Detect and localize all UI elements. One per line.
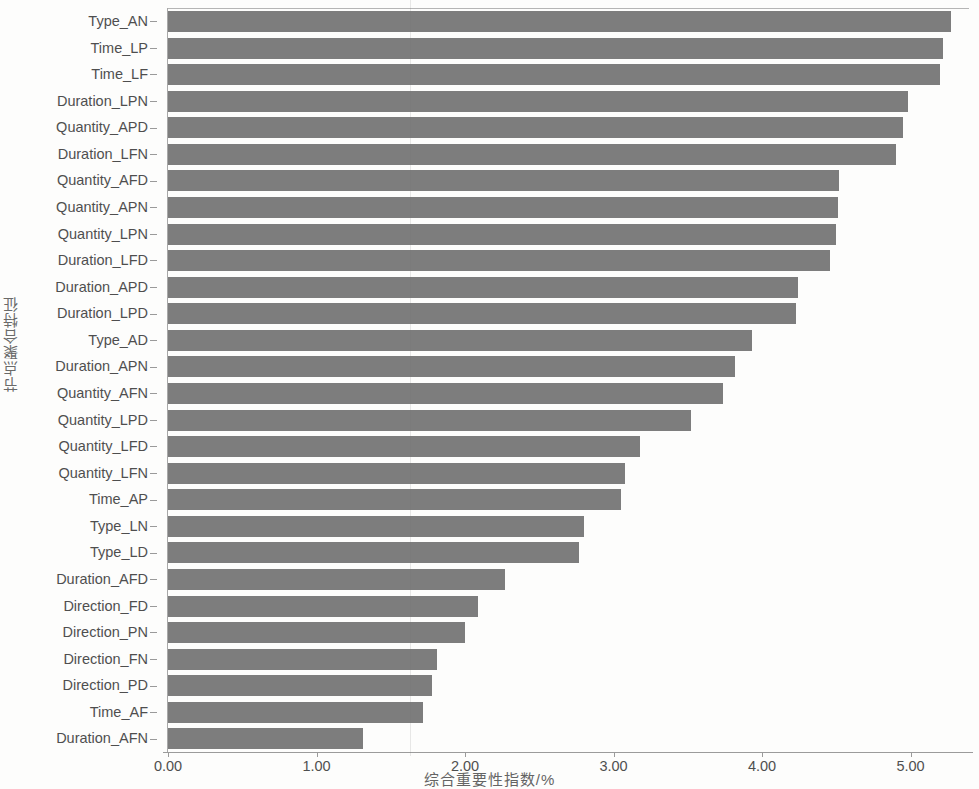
bar	[168, 117, 903, 138]
bar-row	[168, 61, 970, 89]
bar	[168, 303, 796, 324]
y-axis-tick-label: Quantity_AFN	[57, 380, 148, 408]
x-axis-tick-mark	[911, 752, 912, 757]
y-axis-tick-label: Quantity_LPN	[58, 221, 148, 249]
bar-row	[168, 460, 970, 488]
bar	[168, 64, 940, 85]
bar-row	[168, 672, 970, 700]
bar-row	[168, 407, 970, 435]
bar	[168, 516, 584, 537]
bar-row	[168, 167, 970, 195]
y-axis-tick-mark	[150, 739, 157, 740]
y-axis-tick-label: Duration_APD	[55, 274, 148, 302]
bar-row	[168, 114, 970, 142]
bar	[168, 91, 908, 112]
y-axis-tick-label: Duration_LPD	[57, 300, 148, 328]
bar	[168, 224, 836, 245]
plot-area	[167, 8, 969, 752]
bar-row	[168, 593, 970, 621]
y-axis-tick-mark	[150, 287, 157, 288]
x-axis-tick-mark	[762, 752, 763, 757]
bar-row	[168, 274, 970, 302]
y-axis-tick-mark	[150, 632, 157, 633]
y-axis-tick-label: Type_LD	[90, 539, 148, 567]
bar-row	[168, 566, 970, 594]
y-axis-tick-mark	[150, 367, 157, 368]
x-axis-tick-mark	[465, 752, 466, 757]
bar-row	[168, 221, 970, 249]
y-axis-tick-mark	[150, 234, 157, 235]
y-axis-tick-label: Duration_AFN	[56, 725, 148, 753]
y-axis-tick-label: Time_LP	[91, 35, 148, 63]
bar-row	[168, 247, 970, 275]
bar-row	[168, 327, 970, 355]
y-axis-tick-mark	[150, 207, 157, 208]
bar	[168, 436, 640, 457]
y-axis-tick-mark	[150, 260, 157, 261]
x-axis-tick-mark	[317, 752, 318, 757]
bar-row	[168, 725, 970, 753]
bar	[168, 144, 896, 165]
bar-row	[168, 35, 970, 63]
bar	[168, 383, 723, 404]
y-axis-tick-mark	[150, 473, 157, 474]
y-axis-tick-label: Quantity_LPD	[58, 407, 148, 435]
y-axis-tick-label: Direction_PD	[63, 672, 148, 700]
y-axis-tick-label: Time_AF	[90, 699, 148, 727]
bar-row	[168, 486, 970, 514]
y-axis-tick-mark	[150, 420, 157, 421]
bar	[168, 675, 432, 696]
bar-chart-figure: 节点聚合特征 Type_ANTime_LPTime_LFDuration_LPN…	[0, 0, 979, 789]
y-axis-tick-label: Time_AP	[89, 486, 148, 514]
y-axis-tick-mark	[150, 606, 157, 607]
y-axis-tick-mark	[150, 128, 157, 129]
y-axis-tick-label: Direction_FD	[63, 593, 148, 621]
bar-row	[168, 619, 970, 647]
y-axis-tick-label: Type_AN	[88, 8, 148, 36]
bar	[168, 649, 437, 670]
y-axis-tick-label: Time_LF	[91, 61, 148, 89]
bar-row	[168, 194, 970, 222]
bar-row	[168, 353, 970, 381]
x-axis-tick-mark	[614, 752, 615, 757]
y-axis-tick-mark	[150, 659, 157, 660]
y-axis-tick-label: Type_LN	[90, 513, 148, 541]
bar	[168, 410, 691, 431]
bar	[168, 596, 478, 617]
bar-row	[168, 8, 970, 36]
bar	[168, 330, 752, 351]
y-axis-tick-label: Quantity_APN	[56, 194, 148, 222]
bar-row	[168, 699, 970, 727]
bar-row	[168, 646, 970, 674]
bar	[168, 11, 951, 32]
x-axis-tick-mark	[168, 752, 169, 757]
y-axis-tick-mark	[150, 500, 157, 501]
bar	[168, 622, 465, 643]
y-axis-tick-mark	[150, 393, 157, 394]
bar-series	[168, 8, 969, 752]
y-axis-tick-mark	[150, 314, 157, 315]
y-axis-tick-mark	[150, 74, 157, 75]
y-axis-tick-mark	[150, 154, 157, 155]
y-axis-tick-mark	[150, 526, 157, 527]
y-axis-tick-mark	[150, 181, 157, 182]
y-axis-tick-label: Duration_AFD	[56, 566, 148, 594]
y-axis-tick-mark	[150, 553, 157, 554]
bar-row	[168, 539, 970, 567]
y-axis-tick-label: Duration_LFN	[58, 141, 148, 169]
bar	[168, 463, 625, 484]
y-axis-tick-label: Quantity_AFD	[57, 167, 148, 195]
bar	[168, 197, 838, 218]
bar	[168, 728, 363, 749]
y-axis-tick-mark	[150, 446, 157, 447]
y-axis-tick-label: Duration_LFD	[58, 247, 148, 275]
bar-row	[168, 433, 970, 461]
y-axis-tick-label: Duration_LPN	[57, 88, 148, 116]
y-axis-tick-label: Quantity_LFD	[59, 433, 148, 461]
y-axis-tick-mark	[150, 21, 157, 22]
bar	[168, 356, 735, 377]
bar	[168, 702, 423, 723]
bar	[168, 38, 943, 59]
y-axis-tick-label: Quantity_LFN	[59, 460, 148, 488]
bar-row	[168, 380, 970, 408]
